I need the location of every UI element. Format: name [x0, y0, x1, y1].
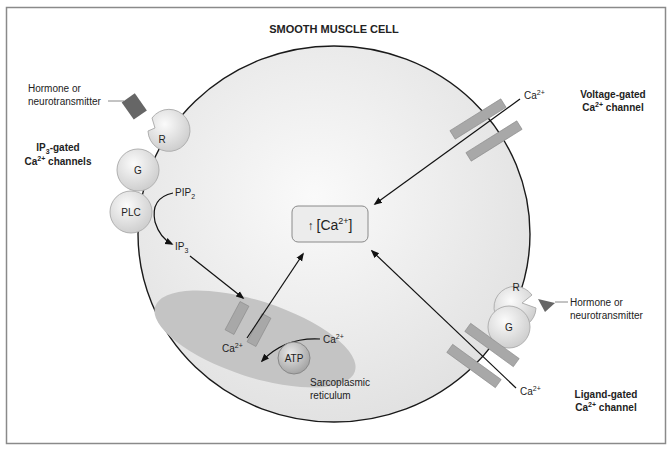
- right-ligand-label-2: neurotransmitter: [570, 310, 643, 321]
- atp-label: ATP: [285, 353, 304, 364]
- right-ligand-label-1: Hormone or: [570, 297, 623, 308]
- left-receptor-icon: [148, 109, 190, 151]
- increase-arrow-icon: ↑: [308, 219, 314, 233]
- voltage-gated-label-2: Ca2+ channel: [582, 101, 644, 113]
- diagram-canvas: SMOOTH MUSCLE CELL Hormone or neurotrans…: [0, 0, 668, 449]
- left-ligand-label-1: Hormone or: [28, 83, 81, 94]
- right-receptor-label: R: [512, 282, 519, 293]
- sr-label-1: Sarcoplasmic: [310, 377, 370, 388]
- left-ligand-label-2: neurotransmitter: [28, 96, 101, 107]
- ligand-gated-label-1: Ligand-gated: [575, 389, 638, 400]
- diagram-title: SMOOTH MUSCLE CELL: [269, 23, 399, 35]
- left-receptor-label: R: [158, 134, 165, 145]
- right-g-protein-label: G: [505, 322, 513, 333]
- sr-label-2: reticulum: [310, 390, 351, 401]
- left-g-protein-label: G: [134, 165, 142, 176]
- ip3-gated-label-2: Ca2+ channels: [25, 155, 92, 167]
- plc-label: PLC: [121, 207, 140, 218]
- ligand-gated-label-2: Ca2+ channel: [575, 401, 637, 413]
- intracellular-calcium-box: ↑[Ca2+]: [292, 206, 368, 242]
- voltage-gated-label-1: Voltage-gated: [580, 89, 645, 100]
